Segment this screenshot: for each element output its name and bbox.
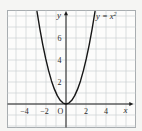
x-tick-label: −4 [20, 107, 29, 116]
x-tick-label: −2 [40, 107, 49, 116]
origin-label: O [58, 107, 64, 116]
x-tick-label: 4 [104, 107, 108, 116]
y-axis-label: y [56, 10, 61, 20]
y-tick-label: 2 [58, 78, 62, 87]
x-axis-label: x [123, 105, 128, 115]
function-graph: −4−224246 y x O y = x2 [0, 0, 142, 131]
x-tick-label: 2 [84, 107, 88, 116]
math-figure: −4−224246 y x O y = x2 [0, 0, 142, 131]
equation-exponent: 2 [114, 11, 117, 17]
equation-base: y = x [95, 11, 114, 21]
y-tick-label: 6 [58, 34, 62, 43]
equation-label: y = x2 [95, 11, 117, 22]
y-tick-label: 4 [58, 56, 62, 65]
